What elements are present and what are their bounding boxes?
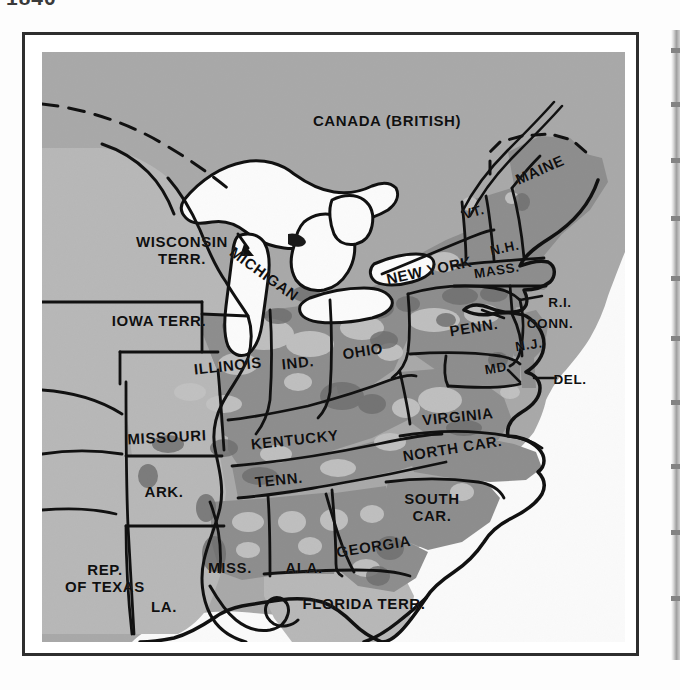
map-graphic [42, 52, 625, 642]
year-caption: 1840 [6, 0, 57, 5]
historical-map: CANADA (BRITISH)MAINEVT.N.H.MASS.NEW YOR… [42, 52, 625, 642]
scan-page-edge [671, 30, 680, 660]
paper-grain [42, 52, 625, 642]
map-plate-inner: CANADA (BRITISH)MAINEVT.N.H.MASS.NEW YOR… [25, 35, 636, 653]
scanned-page: 1840 [0, 0, 680, 690]
map-plate-frame: CANADA (BRITISH)MAINEVT.N.H.MASS.NEW YOR… [22, 32, 639, 656]
